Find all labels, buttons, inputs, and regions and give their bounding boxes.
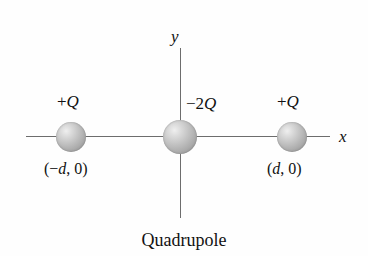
left-charge-coordinate-label: (−d, 0) xyxy=(44,161,88,177)
right-positive-charge-sphere xyxy=(277,122,307,152)
y-axis-label: y xyxy=(171,28,179,45)
left-coord-close: , 0) xyxy=(66,160,87,177)
center-charge-sign: −2 xyxy=(186,94,204,113)
right-coord-close: , 0) xyxy=(280,160,301,177)
x-axis-label: x xyxy=(339,128,347,145)
center-negative-charge-sphere xyxy=(163,120,197,154)
left-charge-sign: + xyxy=(57,92,67,111)
right-charge-coordinate-label: (d, 0) xyxy=(267,161,302,177)
center-charge-label: −2Q xyxy=(186,95,216,112)
right-charge-label: +Q xyxy=(277,93,299,110)
left-charge-label: +Q xyxy=(57,93,79,110)
right-charge-symbol: Q xyxy=(287,92,299,111)
left-coord-open: (− xyxy=(44,160,58,177)
left-charge-symbol: Q xyxy=(67,92,79,111)
quadrupole-figure: x y +Q −2Q +Q (−d, 0) (d, 0) Quadrupole xyxy=(0,0,368,256)
figure-caption: Quadrupole xyxy=(0,231,368,249)
center-charge-symbol: Q xyxy=(204,94,216,113)
left-positive-charge-sphere xyxy=(56,122,86,152)
right-charge-sign: + xyxy=(277,92,287,111)
